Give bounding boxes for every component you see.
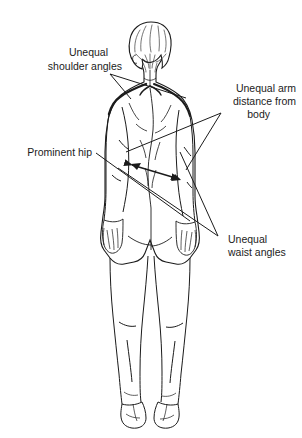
arm-distance-line3: body bbox=[247, 108, 271, 120]
body-figure bbox=[101, 22, 200, 428]
legs bbox=[110, 256, 190, 404]
annotation-prominent-hip: Prominent hip bbox=[27, 146, 92, 158]
ankle-lines bbox=[124, 392, 176, 396]
arm-distance-line1: Unequal arm bbox=[236, 82, 296, 94]
arm-distance-line2: distance from bbox=[233, 95, 296, 107]
waist-angles-line1: Unequal bbox=[228, 233, 267, 245]
annotation-unequal-waist-angles: Unequal waist angles bbox=[227, 233, 286, 258]
annotation-unequal-arm-distance: Unequal arm distance from body bbox=[233, 82, 296, 120]
waist-angles-line2: waist angles bbox=[227, 246, 286, 258]
prominent-hip-line1: Prominent hip bbox=[27, 146, 92, 158]
annotation-unequal-shoulder-angles: Unequal shoulder angles bbox=[48, 46, 122, 72]
shoulder-angles-line1: Unequal bbox=[69, 46, 108, 58]
scoliosis-diagram: Unequal shoulder angles Unequal arm dist… bbox=[0, 0, 302, 438]
diagram-canvas: Unequal shoulder angles Unequal arm dist… bbox=[0, 0, 302, 438]
shoulder-angles-line2: shoulder angles bbox=[48, 60, 122, 72]
feet bbox=[121, 402, 179, 428]
